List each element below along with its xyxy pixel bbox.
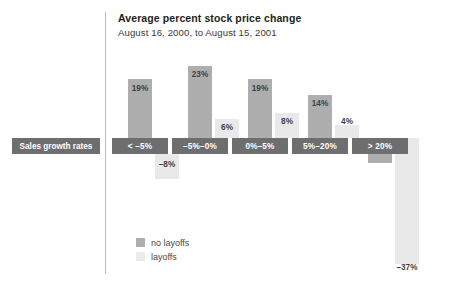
bar-label-no-layoffs-cat-3: 14% [308,99,332,108]
chart-legend: no layoffs layoffs [136,236,189,264]
stock-price-change-chart: Average percent stock price change Augus… [0,0,450,286]
bar-label-layoffs-cat-2: 8% [275,117,299,126]
bar-layoffs-cat-4 [395,138,419,264]
bar-layoffs-cat-3 [335,125,359,138]
category-band-1: –5%–0% [172,138,228,154]
category-band-4: > 20% [352,138,408,154]
bar-label-layoffs-cat-0: –8% [155,160,179,169]
bar-label-no-layoffs-cat-2: 19% [248,84,272,93]
legend-item-no-layoffs: no layoffs [136,236,189,249]
legend-item-layoffs: layoffs [136,250,189,263]
category-band-3: 5%–20% [292,138,348,154]
legend-label-no-layoffs: no layoffs [151,238,189,248]
legend-swatch-no-layoffs [136,238,145,247]
bar-label-layoffs-cat-3: 4% [335,117,359,126]
category-band-0: < –5% [112,138,168,154]
bar-label-layoffs-cat-4: –37% [395,263,419,272]
bar-label-no-layoffs-cat-0: 19% [128,84,152,93]
category-band-row: Sales growth rates < –5% –5%–0% 0%–5% 5%… [0,138,450,154]
bar-label-no-layoffs-cat-1: 23% [188,70,212,79]
axis-label-sales-growth-rates: Sales growth rates [12,138,100,154]
category-band-2: 0%–5% [232,138,288,154]
bar-label-layoffs-cat-1: 6% [215,123,239,132]
legend-label-layoffs: layoffs [151,252,177,262]
plot-area: 19% –8% 23% 6% 19% 8% 14% 4% –8% –37% Sa… [0,0,450,286]
legend-swatch-layoffs [136,252,145,261]
